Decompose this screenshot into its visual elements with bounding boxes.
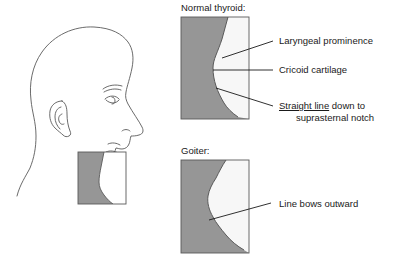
ear-antihelix: [59, 114, 64, 124]
thyroid-examination-figure: Normal thyroid: Goiter: Laryngeal promin…: [0, 0, 395, 263]
normal-thyroid-title: Normal thyroid:: [181, 2, 245, 14]
ear-outer: [50, 101, 71, 137]
head-inset-region: [78, 152, 128, 204]
eye-upper-lid: [105, 96, 119, 99]
annotation-cricoid-cartilage: Cricoid cartilage: [279, 64, 347, 76]
goiter-title: Goiter:: [181, 145, 210, 157]
annotation-straight-line-rest: down to: [329, 100, 365, 111]
annotation-straight-line-emphasis: Straight line: [279, 100, 329, 111]
eye-lower-lid: [106, 100, 119, 103]
ear-inner-helix: [55, 107, 61, 129]
brow-line: [103, 85, 122, 89]
annotation-line-bows-outward: Line bows outward: [279, 198, 358, 210]
annotation-suprasternal-notch: suprasternal notch: [279, 112, 374, 124]
upper-lip: [108, 143, 120, 145]
brow-line-lower: [104, 89, 121, 92]
normal-thyroid-illustration: [181, 17, 249, 119]
annotation-laryngeal-prominence: Laryngeal prominence: [279, 35, 373, 47]
goiter-illustration: [181, 160, 249, 253]
annotation-straight-line: Straight line down to suprasternal notch: [279, 100, 374, 123]
nostril: [122, 130, 130, 132]
